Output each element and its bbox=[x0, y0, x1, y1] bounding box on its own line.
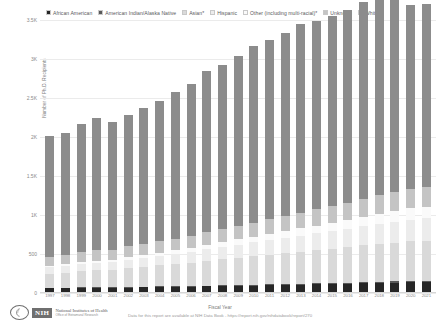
stacked-bar[interactable] bbox=[139, 108, 148, 293]
bar-segment[interactable] bbox=[171, 254, 180, 264]
bar-segment[interactable] bbox=[234, 56, 243, 226]
bar-column[interactable] bbox=[42, 20, 58, 293]
bar-segment[interactable] bbox=[61, 255, 70, 265]
bar-segment[interactable] bbox=[312, 226, 321, 234]
bar-column[interactable] bbox=[89, 20, 105, 293]
bar-column[interactable] bbox=[371, 20, 387, 293]
bar-column[interactable] bbox=[293, 20, 309, 293]
bar-segment[interactable] bbox=[92, 263, 101, 270]
bar-segment[interactable] bbox=[265, 219, 274, 234]
bar-segment[interactable] bbox=[45, 136, 54, 256]
bar-segment[interactable] bbox=[390, 243, 399, 282]
legend-item[interactable]: Asian* bbox=[182, 10, 204, 16]
bar-column[interactable] bbox=[215, 20, 231, 293]
bar-segment[interactable] bbox=[296, 252, 305, 284]
bar-column[interactable] bbox=[356, 20, 372, 293]
bar-segment[interactable] bbox=[296, 24, 305, 213]
legend-item[interactable]: Hispanic bbox=[210, 10, 237, 16]
bar-segment[interactable] bbox=[406, 208, 415, 219]
bar-segment[interactable] bbox=[422, 187, 431, 207]
bar-column[interactable] bbox=[340, 20, 356, 293]
bar-segment[interactable] bbox=[234, 226, 243, 240]
stacked-bar[interactable] bbox=[155, 101, 164, 293]
bar-segment[interactable] bbox=[202, 71, 211, 232]
legend-item[interactable]: Other (including multi-racial)* bbox=[243, 10, 317, 16]
stacked-bar[interactable] bbox=[45, 136, 54, 293]
bar-segment[interactable] bbox=[155, 256, 164, 266]
bar-column[interactable] bbox=[277, 20, 293, 293]
bar-segment[interactable] bbox=[328, 206, 337, 223]
bar-segment[interactable] bbox=[281, 231, 290, 238]
bar-segment[interactable] bbox=[155, 101, 164, 241]
bar-segment[interactable] bbox=[328, 223, 337, 231]
bar-segment[interactable] bbox=[296, 228, 305, 235]
bar-column[interactable] bbox=[387, 20, 403, 293]
bar-segment[interactable] bbox=[249, 242, 258, 256]
bar-segment[interactable] bbox=[77, 124, 86, 252]
bar-segment[interactable] bbox=[375, 0, 384, 195]
bar-segment[interactable] bbox=[249, 223, 258, 237]
stacked-bar[interactable] bbox=[343, 10, 352, 293]
legend-item[interactable]: American Indian/Alaska Native bbox=[98, 10, 176, 16]
bar-segment[interactable] bbox=[249, 46, 258, 222]
bar-segment[interactable] bbox=[77, 252, 86, 262]
bar-segment[interactable] bbox=[359, 245, 368, 282]
bar-segment[interactable] bbox=[281, 33, 290, 216]
stacked-bar[interactable] bbox=[234, 56, 243, 293]
bar-segment[interactable] bbox=[155, 265, 164, 286]
bar-segment[interactable] bbox=[234, 245, 243, 258]
bar-segment[interactable] bbox=[343, 10, 352, 203]
stacked-bar[interactable] bbox=[296, 24, 305, 293]
bar-segment[interactable] bbox=[406, 220, 415, 242]
bar-column[interactable] bbox=[309, 20, 325, 293]
bar-segment[interactable] bbox=[187, 236, 196, 248]
bar-segment[interactable] bbox=[281, 238, 290, 253]
bar-segment[interactable] bbox=[139, 244, 148, 255]
stacked-bar[interactable] bbox=[375, 0, 384, 293]
stacked-bar[interactable] bbox=[406, 5, 415, 293]
bar-segment[interactable] bbox=[406, 5, 415, 189]
bar-segment[interactable] bbox=[187, 263, 196, 286]
bar-segment[interactable] bbox=[422, 207, 431, 219]
bar-segment[interactable] bbox=[390, 0, 399, 192]
bar-segment[interactable] bbox=[249, 256, 258, 284]
bar-segment[interactable] bbox=[202, 261, 211, 286]
bar-segment[interactable] bbox=[390, 192, 399, 211]
bar-segment[interactable] bbox=[92, 118, 101, 251]
stacked-bar[interactable] bbox=[218, 65, 227, 293]
bar-segment[interactable] bbox=[218, 229, 227, 242]
bar-segment[interactable] bbox=[296, 236, 305, 252]
bar-segment[interactable] bbox=[328, 231, 337, 249]
bar-segment[interactable] bbox=[265, 40, 274, 219]
bar-segment[interactable] bbox=[390, 222, 399, 243]
bar-segment[interactable] bbox=[265, 255, 274, 285]
bar-segment[interactable] bbox=[108, 122, 117, 249]
bar-segment[interactable] bbox=[108, 270, 117, 288]
bar-segment[interactable] bbox=[343, 229, 352, 247]
bar-segment[interactable] bbox=[218, 247, 227, 259]
bar-segment[interactable] bbox=[124, 268, 133, 287]
stacked-bar[interactable] bbox=[312, 21, 321, 293]
bar-segment[interactable] bbox=[390, 211, 399, 222]
bar-segment[interactable] bbox=[187, 84, 196, 236]
stacked-bar[interactable] bbox=[187, 84, 196, 293]
stacked-bar[interactable] bbox=[390, 0, 399, 293]
bar-segment[interactable] bbox=[343, 220, 352, 229]
stacked-bar[interactable] bbox=[92, 118, 101, 293]
stacked-bar[interactable] bbox=[61, 133, 70, 293]
legend-item[interactable]: African American bbox=[46, 10, 92, 16]
bar-column[interactable] bbox=[58, 20, 74, 293]
bar-column[interactable] bbox=[183, 20, 199, 293]
bar-segment[interactable] bbox=[77, 271, 86, 287]
bar-segment[interactable] bbox=[422, 4, 431, 187]
bar-column[interactable] bbox=[403, 20, 419, 293]
stacked-bar[interactable] bbox=[171, 92, 180, 293]
bar-segment[interactable] bbox=[202, 232, 211, 245]
bar-column[interactable] bbox=[120, 20, 136, 293]
bar-segment[interactable] bbox=[422, 241, 431, 281]
bar-segment[interactable] bbox=[406, 241, 415, 280]
stacked-bar[interactable] bbox=[359, 2, 368, 293]
stacked-bar[interactable] bbox=[281, 33, 290, 293]
bar-segment[interactable] bbox=[375, 244, 384, 282]
bar-segment[interactable] bbox=[312, 233, 321, 250]
